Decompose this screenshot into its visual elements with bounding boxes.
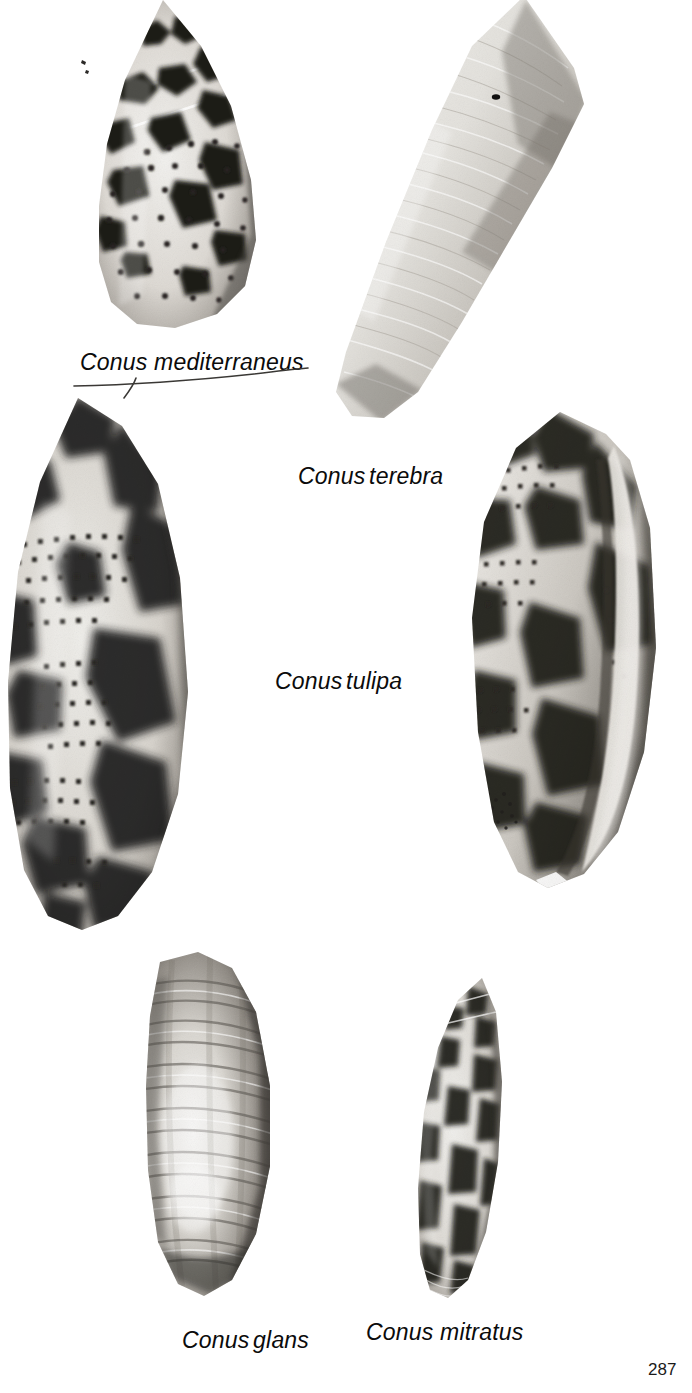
caption-conus-mitratus: Conus mitratus [366, 1319, 523, 1346]
plate-speck [81, 60, 89, 74]
caption-text: Conus mitratus [366, 1319, 523, 1345]
shell-conus-terebra [312, 0, 594, 442]
shell-speck [492, 94, 500, 100]
shell-conus-mediterraneus [55, 0, 273, 334]
caption-text: Conus tulipa [275, 668, 402, 694]
shell-conus-tulipa-right [444, 402, 674, 894]
caption-conus-glans: Conus glans [182, 1327, 309, 1354]
plate-page: Conus mediterraneus Conus terebra Conus … [0, 0, 692, 1393]
caption-text: Conus glans [182, 1327, 309, 1353]
caption-text: Conus terebra [298, 463, 443, 489]
caption-pointer-line [68, 366, 313, 400]
caption-conus-terebra: Conus terebra [298, 463, 443, 490]
page-number-text: 287 [648, 1360, 676, 1379]
shell-conus-mitratus [396, 972, 528, 1304]
caption-conus-tulipa: Conus tulipa [275, 668, 402, 695]
shell-conus-tulipa-left [0, 392, 204, 937]
shell-conus-glans [124, 946, 304, 1302]
page-number: 287 [648, 1360, 676, 1380]
